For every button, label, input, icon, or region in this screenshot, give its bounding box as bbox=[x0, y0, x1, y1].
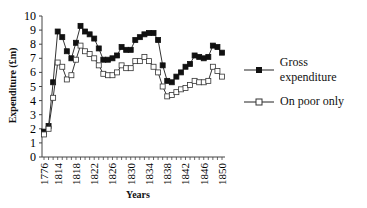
filled-square-marker-icon bbox=[244, 65, 274, 75]
open-square-marker bbox=[46, 126, 51, 131]
x-tick-label: 1826 bbox=[106, 163, 118, 186]
open-square-marker bbox=[96, 63, 101, 68]
open-square-marker bbox=[115, 70, 120, 75]
x-tick-label: 1776 bbox=[38, 163, 50, 186]
y-tick-label: 3 bbox=[30, 108, 36, 122]
filled-square-marker bbox=[96, 46, 101, 51]
y-tick-label: 9 bbox=[30, 23, 36, 37]
x-tick-label: 1834 bbox=[143, 163, 155, 186]
x-tick-label: 1842 bbox=[179, 163, 191, 185]
filled-square-marker bbox=[220, 50, 225, 55]
y-tick-label: 1 bbox=[30, 136, 36, 150]
x-tick-label: 1838 bbox=[161, 163, 173, 186]
open-square-marker bbox=[42, 132, 47, 137]
filled-square-marker bbox=[60, 35, 65, 40]
filled-square-marker bbox=[78, 23, 83, 28]
x-tick-label: 1818 bbox=[70, 163, 82, 186]
x-axis-label: Years bbox=[108, 189, 168, 200]
filled-square-marker bbox=[115, 53, 120, 58]
x-tick-label: 1822 bbox=[88, 163, 100, 185]
y-tick-label: 7 bbox=[30, 51, 36, 65]
open-square-marker-icon bbox=[244, 97, 274, 107]
open-square-marker bbox=[78, 43, 83, 48]
legend-label-gross: Gross expenditure bbox=[280, 55, 367, 85]
open-square-marker bbox=[206, 78, 211, 83]
open-square-marker bbox=[92, 56, 97, 61]
filled-square-marker bbox=[160, 63, 165, 68]
filled-square-marker bbox=[188, 61, 193, 66]
open-square-marker bbox=[73, 57, 78, 62]
x-tick-label: 1850 bbox=[216, 163, 228, 186]
open-square-marker bbox=[69, 73, 74, 78]
filled-square-marker bbox=[128, 47, 133, 52]
filled-square-marker bbox=[169, 80, 174, 85]
y-tick-label: 5 bbox=[30, 80, 36, 94]
open-square-marker bbox=[160, 84, 165, 89]
x-tick-label: 1846 bbox=[198, 163, 210, 186]
open-square-marker bbox=[215, 68, 220, 73]
open-square-marker bbox=[151, 64, 156, 69]
filled-square-marker bbox=[178, 70, 183, 75]
legend-label-poor: On poor only bbox=[280, 94, 344, 109]
y-tick-label: 10 bbox=[24, 9, 36, 23]
filled-square-marker bbox=[215, 45, 220, 50]
filled-square-marker bbox=[55, 29, 60, 34]
open-square-marker bbox=[51, 95, 56, 100]
y-axis-label: Expenditure (£m) bbox=[7, 36, 18, 136]
open-square-marker bbox=[156, 70, 161, 75]
open-square-marker bbox=[146, 59, 151, 64]
filled-square-marker bbox=[156, 37, 161, 42]
filled-square-marker bbox=[64, 49, 69, 54]
y-tick-label: 8 bbox=[30, 37, 36, 51]
open-square-marker bbox=[220, 74, 225, 79]
y-tick-label: 4 bbox=[30, 94, 36, 108]
open-square-marker bbox=[60, 64, 65, 69]
filled-square-marker bbox=[92, 36, 97, 41]
open-square-marker bbox=[128, 66, 133, 71]
y-tick-label: 2 bbox=[30, 122, 36, 136]
x-tick-label: 1830 bbox=[125, 163, 137, 186]
legend-item-poor: On poor only bbox=[244, 94, 344, 109]
y-tick-label: 6 bbox=[30, 65, 36, 79]
x-tick-label: 1814 bbox=[52, 163, 64, 186]
y-tick-label: 0 bbox=[30, 150, 36, 164]
filled-square-marker bbox=[206, 54, 211, 59]
legend-item-gross: Gross expenditure bbox=[244, 55, 367, 85]
filled-square-marker bbox=[151, 30, 156, 35]
